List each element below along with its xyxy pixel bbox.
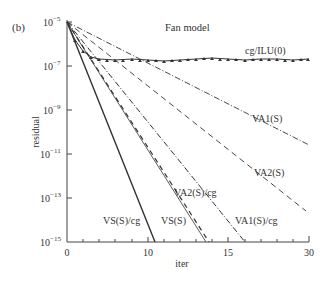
x-tick-labels: 0 10 15 30 <box>65 247 315 258</box>
y-tick-labels: 10−5 10−7 10−9 10−11 10−13 10−15 <box>40 15 61 248</box>
panel-label: (b) <box>12 21 25 34</box>
y-axis-label: residual <box>30 116 41 148</box>
svg-text:10−15: 10−15 <box>40 235 61 248</box>
label-va2s-cg: VA2(S)/cg <box>174 187 217 199</box>
label-cg-ilu0: cg/ILU(0) <box>245 45 286 57</box>
series-va1s <box>67 22 309 145</box>
label-vss-cg: VS(S)/cg <box>103 215 140 227</box>
label-vss: VS(S) <box>161 215 186 227</box>
x-axis-label: iter <box>175 258 189 269</box>
svg-text:15: 15 <box>223 247 233 258</box>
label-va1s: VA1(S) <box>252 113 282 125</box>
svg-text:10−7: 10−7 <box>43 59 61 72</box>
chart-title: Fan model <box>165 22 210 33</box>
svg-text:10−5: 10−5 <box>43 15 61 28</box>
svg-text:30: 30 <box>304 247 314 258</box>
svg-text:10: 10 <box>143 247 153 258</box>
svg-text:10−13: 10−13 <box>40 191 61 204</box>
label-va2s: VA2(S) <box>254 167 284 179</box>
label-va1s-cg: VA1(S)/cg <box>235 215 278 227</box>
series-vss <box>67 22 206 242</box>
svg-text:10−9: 10−9 <box>43 103 61 116</box>
residual-chart: (b) Fan model 10−5 10−7 10−9 10−11 10−13 <box>0 0 326 281</box>
series-va1s-cg <box>67 22 245 242</box>
svg-text:0: 0 <box>65 247 70 258</box>
svg-text:10−11: 10−11 <box>40 147 61 160</box>
series-vss-cg <box>67 22 155 242</box>
